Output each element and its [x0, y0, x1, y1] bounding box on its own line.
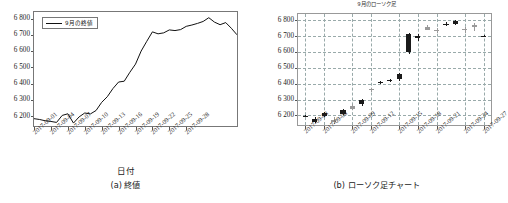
gridline-vertical	[399, 14, 400, 125]
y-tick-mark	[31, 35, 34, 36]
gridline-horizontal	[298, 20, 491, 21]
candle-body	[359, 100, 364, 104]
candle-body	[303, 116, 308, 117]
y-tick-mark	[295, 100, 298, 101]
y-tick-label: 6 300	[278, 96, 294, 103]
y-tick-mark	[31, 19, 34, 20]
y-tick-mark	[295, 68, 298, 69]
chart-title-candlestick: 9月のローソク足	[251, 1, 502, 7]
y-tick-mark	[31, 67, 34, 68]
legend-swatch-icon	[46, 23, 62, 24]
candle-body	[350, 106, 355, 109]
y-tick-label: 6 600	[14, 47, 30, 54]
gridline-horizontal	[298, 36, 491, 37]
y-tick-mark	[31, 100, 34, 101]
y-tick-label: 6 200	[14, 113, 30, 120]
candle-body	[462, 29, 467, 31]
y-tick-label: 6 300	[14, 96, 30, 103]
candle-body	[406, 34, 411, 52]
gridline-horizontal	[298, 84, 491, 85]
x-axis-title-line: 日付	[0, 166, 251, 176]
caption-panel-b: (b) ローソク足チャート	[251, 180, 502, 190]
panel-candlestick: 9月のローソク足 6 2006 3006 4006 5006 6006 7006…	[251, 0, 502, 203]
y-tick-mark	[295, 115, 298, 116]
y-tick-mark	[295, 36, 298, 37]
y-tick-mark	[295, 52, 298, 53]
y-tick-label: 6 500	[278, 64, 294, 71]
candle-body	[397, 74, 402, 79]
candle-body	[434, 30, 439, 31]
legend-label: 9月の終値	[65, 20, 93, 26]
legend-line: 9月の終値	[42, 17, 98, 29]
gridline-horizontal	[298, 68, 491, 69]
gridline-vertical	[305, 14, 306, 125]
line-series	[34, 12, 237, 126]
plot-area-candlestick	[297, 13, 492, 126]
candle-body	[415, 36, 420, 38]
candle-body	[481, 36, 486, 37]
caption-panel-a: (a) 終値	[0, 180, 251, 190]
y-tick-label: 6 700	[14, 31, 30, 38]
y-tick-label: 6 200	[278, 112, 294, 119]
panel-closing-price: 9月の終値 6 2006 3006 4006 5006 6006 7006 80…	[0, 0, 251, 203]
y-tick-mark	[31, 51, 34, 52]
y-tick-mark	[295, 20, 298, 21]
y-tick-label: 6 400	[278, 80, 294, 87]
y-tick-label: 6 800	[14, 15, 30, 22]
candle-body	[369, 89, 374, 90]
y-tick-mark	[31, 116, 34, 117]
y-tick-label: 6 500	[14, 64, 30, 71]
y-tick-label: 6 700	[278, 33, 294, 40]
candle-body	[453, 21, 458, 24]
y-tick-label: 6 600	[278, 48, 294, 55]
candle-body	[425, 27, 430, 30]
y-tick-mark	[31, 84, 34, 85]
y-tick-label: 6 400	[14, 80, 30, 87]
y-tick-label: 6 800	[278, 17, 294, 24]
y-tick-mark	[295, 84, 298, 85]
candle-body	[387, 80, 392, 81]
candle-body	[378, 82, 383, 83]
candle-body	[472, 25, 477, 26]
plot-area-line: 9月の終値	[33, 11, 238, 127]
gridline-horizontal	[298, 52, 491, 53]
candle-body	[443, 24, 448, 25]
gridline-horizontal	[298, 100, 491, 101]
